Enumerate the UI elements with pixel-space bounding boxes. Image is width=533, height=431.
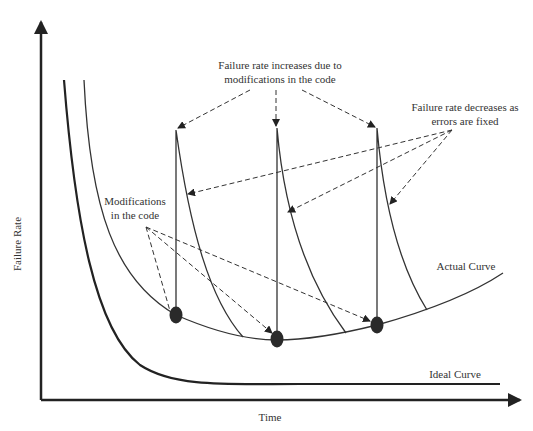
- decrease-annotation-line1: Failure rate decreases as: [411, 101, 518, 113]
- annotation-arrows: [146, 90, 452, 333]
- modification-dot-1: [170, 307, 183, 324]
- ideal-curve-label: Ideal Curve: [429, 368, 481, 380]
- failure-rate-diagram: Failure Rate Time Ideal Curve Actual Cur…: [0, 0, 533, 431]
- modifications-annotation-line1: Modifications: [104, 195, 166, 207]
- x-axis-label: Time: [259, 411, 282, 423]
- spike-2: [277, 128, 346, 340]
- increase-annotation-line1: Failure rate increases due to: [218, 59, 342, 71]
- modification-dot-3: [371, 317, 384, 334]
- y-axis-label: Failure Rate: [11, 217, 23, 271]
- decrease-annotation-line2: errors are fixed: [431, 115, 499, 127]
- modification-dot-2: [271, 331, 284, 348]
- spike-3: [377, 128, 427, 325]
- actual-curve-label: Actual Curve: [437, 260, 496, 272]
- modifications-annotation-line2: in the code: [111, 209, 159, 221]
- spike-1: [176, 130, 243, 337]
- spikes: [176, 128, 427, 340]
- increase-annotation-line2: modifications in the code: [224, 73, 336, 85]
